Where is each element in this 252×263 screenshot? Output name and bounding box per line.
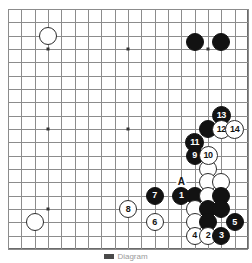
caption-text: Diagram	[117, 252, 147, 261]
star-point	[127, 48, 130, 51]
go-diagram-root: 1312141191017856423 A Diagram	[0, 0, 252, 263]
stone-move-14[interactable]: 14	[225, 120, 244, 139]
stone-move-7[interactable]: 7	[146, 187, 164, 205]
stone-move-8[interactable]: 8	[119, 200, 137, 218]
stone-move-3[interactable]: 3	[212, 227, 230, 245]
grid-line-vertical	[168, 9, 169, 249]
stone-white[interactable]	[26, 213, 44, 231]
caption-swatch-icon	[104, 254, 114, 259]
star-point	[47, 128, 50, 131]
stone-white[interactable]	[39, 27, 57, 45]
stone-move-10[interactable]: 10	[199, 146, 218, 165]
star-point	[47, 48, 50, 51]
go-board[interactable]: 1312141191017856423 A	[8, 9, 248, 249]
stone-move-1[interactable]: 1	[172, 187, 190, 205]
stone-move-6[interactable]: 6	[146, 213, 164, 231]
stone-black[interactable]	[186, 33, 204, 51]
board-label-a: A	[177, 177, 186, 187]
star-point	[207, 48, 210, 51]
grid-line-horizontal	[8, 142, 248, 143]
star-point	[47, 208, 50, 211]
grid-line-vertical	[248, 9, 249, 249]
diagram-caption: Diagram	[0, 251, 252, 262]
grid-line-horizontal	[8, 249, 248, 250]
stone-move-5[interactable]: 5	[226, 213, 244, 231]
grid-line-vertical	[181, 9, 182, 249]
grid-line-vertical	[141, 9, 142, 249]
star-point	[127, 128, 130, 131]
